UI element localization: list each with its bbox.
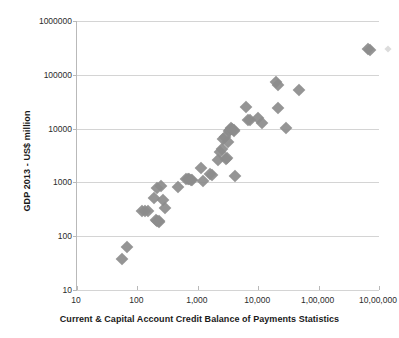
x-axis-tick-label: 1,000 xyxy=(186,295,207,305)
x-tick-mark xyxy=(77,286,78,290)
data-point xyxy=(228,170,241,183)
x-axis-tick-label: 1,00,000 xyxy=(301,295,334,305)
gridline-y xyxy=(77,290,379,291)
x-axis-title: Current & Capital Account Credit Balance… xyxy=(0,314,399,324)
x-axis-tick-label: 10,00,000 xyxy=(359,295,397,305)
data-point xyxy=(240,101,253,114)
y-axis-tick-label: 100000 xyxy=(44,70,72,80)
x-axis-tick-label: 10,000 xyxy=(244,295,270,305)
data-point xyxy=(115,252,128,265)
gridline-y xyxy=(77,75,379,76)
y-axis-title-holder: GDP 2013 - US$ million xyxy=(8,60,30,250)
gridline-y xyxy=(77,21,379,22)
scatter-chart: 101001000100001000001000000 GDP 2013 - U… xyxy=(0,0,399,338)
data-point xyxy=(272,102,285,115)
x-tick-mark xyxy=(319,286,320,290)
data-point xyxy=(159,202,172,215)
y-tick-mark xyxy=(73,75,77,76)
y-tick-mark xyxy=(73,182,77,183)
y-axis-tick-label: 1000000 xyxy=(39,16,72,26)
x-tick-mark xyxy=(379,286,380,290)
y-tick-mark xyxy=(73,129,77,130)
plot-area xyxy=(76,21,378,290)
x-tick-mark xyxy=(198,286,199,290)
gridline-y xyxy=(77,182,379,183)
data-point xyxy=(384,46,391,53)
y-tick-mark xyxy=(73,236,77,237)
y-tick-mark xyxy=(73,290,77,291)
x-axis-tick-label: 100 xyxy=(129,295,143,305)
data-point xyxy=(293,84,306,97)
y-axis-tick-label: 10 xyxy=(63,285,72,295)
x-axis-tick-label: 10 xyxy=(71,295,80,305)
gridline-y xyxy=(77,236,379,237)
x-tick-mark xyxy=(258,286,259,290)
y-axis-tick-label: 100 xyxy=(58,231,72,241)
data-point xyxy=(280,122,293,135)
y-axis-tick-label: 1000 xyxy=(53,177,72,187)
y-axis-tick-label: 10000 xyxy=(48,124,72,134)
y-tick-mark xyxy=(73,21,77,22)
data-point xyxy=(121,241,134,254)
y-axis-title: GDP 2013 - US$ million xyxy=(22,66,32,256)
x-tick-mark xyxy=(137,286,138,290)
